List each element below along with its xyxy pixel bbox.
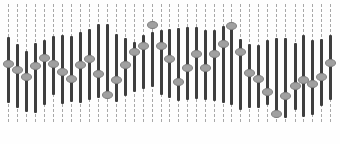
slider-range-bar	[222, 26, 225, 103]
slider-range-bar	[97, 24, 100, 98]
slider-knob[interactable]	[280, 92, 291, 100]
slider-range-bar	[115, 34, 118, 102]
slider-range-bar	[25, 51, 28, 112]
slider-channel-32[interactable]	[281, 0, 291, 144]
slider-range-bar	[160, 30, 163, 95]
slider-range-bar	[213, 30, 216, 101]
slider-range-bar	[70, 36, 73, 102]
slider-range-bar	[168, 29, 171, 98]
slider-range-bar	[230, 26, 233, 105]
slider-channel-37[interactable]	[326, 0, 336, 144]
slider-range-bar	[284, 38, 287, 118]
slider-range-bar	[16, 44, 19, 108]
slider-range-bar	[43, 40, 46, 105]
slider-range-bar	[34, 43, 37, 113]
slider-range-bar	[195, 27, 198, 99]
slider-range-bar	[88, 29, 91, 100]
slider-range-bar	[177, 28, 180, 101]
graphic-equalizer	[0, 0, 340, 144]
slider-range-bar	[7, 37, 10, 103]
slider-range-bar	[151, 32, 154, 87]
slider-range-bar	[294, 43, 297, 110]
slider-range-bar	[106, 24, 109, 95]
slider-knob[interactable]	[325, 59, 336, 67]
slider-range-bar	[311, 40, 314, 115]
slider-range-bar	[329, 35, 332, 100]
slider-range-bar	[275, 38, 278, 115]
